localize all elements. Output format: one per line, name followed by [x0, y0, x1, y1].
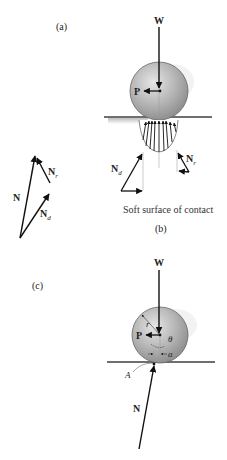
nr-label-left: Nr	[48, 166, 58, 180]
soft-surface-caption: Soft surface of contact	[123, 204, 213, 215]
nd-arrow-b	[121, 154, 142, 191]
point-a-leader	[133, 363, 153, 372]
nd-component-b: Nd	[111, 152, 143, 191]
radius-label: r	[146, 319, 150, 329]
n-label-left: N	[13, 192, 21, 203]
diagram-canvas: (a) W P Nd	[0, 0, 227, 460]
push-label-top: P	[134, 86, 140, 97]
panel-c-label: (c)	[32, 280, 43, 292]
normal-label-bottom: N	[133, 403, 141, 414]
push-label-bottom: P	[136, 330, 142, 341]
nr-component-b: Nr	[177, 150, 196, 172]
force-vector-triangle: N Nd Nr	[13, 156, 58, 238]
soft-contact-region	[139, 120, 178, 152]
normal-arrow-bottom	[139, 366, 154, 449]
wheel-top	[104, 62, 212, 168]
panel-b-label: (b)	[155, 223, 167, 235]
rolling-resistance-diagram: (a) W P Nd	[0, 0, 227, 460]
point-a-label: A	[124, 370, 131, 380]
weight-label-bottom: W	[154, 257, 164, 268]
nr-label-b: Nr	[186, 153, 196, 167]
nd-label-b: Nd	[111, 163, 122, 177]
panel-a-label: (a)	[56, 21, 67, 33]
weight-label-top: W	[154, 15, 164, 26]
theta-label: θ	[168, 334, 173, 344]
wheel-bottom: r θ a A	[107, 307, 215, 380]
nd-label-left: Nd	[40, 208, 51, 222]
nr-horizontal-arrow-b	[179, 171, 189, 172]
offset-a-label: a	[168, 349, 173, 359]
